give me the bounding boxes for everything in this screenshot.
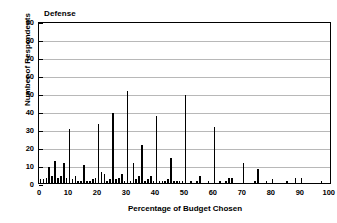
bar <box>101 172 103 183</box>
bar <box>257 169 259 183</box>
chart-figure: Defense Number of Respondents 0102030405… <box>0 0 337 223</box>
bar <box>159 181 161 183</box>
bar <box>199 176 201 183</box>
gridline-y-70 <box>39 59 330 60</box>
bar <box>321 181 323 183</box>
bar <box>60 176 62 183</box>
bar <box>63 163 65 183</box>
bar <box>115 179 117 183</box>
bar <box>112 113 114 183</box>
x-tick-mark-100 <box>330 179 331 183</box>
y-tick-label: 70 <box>4 54 34 63</box>
bar <box>133 163 135 183</box>
y-tick-mark-0 <box>39 185 43 186</box>
bar <box>266 181 268 183</box>
bar <box>106 181 108 183</box>
bar <box>66 178 68 183</box>
x-tick-label: 20 <box>84 188 110 197</box>
bar <box>295 178 297 183</box>
bar <box>80 181 82 183</box>
bar <box>147 179 149 183</box>
bar <box>182 181 184 183</box>
bar <box>208 181 210 183</box>
bar <box>118 178 120 183</box>
y-tick-mark-20 <box>39 149 43 150</box>
x-tick-mark-60 <box>214 179 215 183</box>
x-tick-mark-80 <box>272 179 273 183</box>
x-tick-label: 60 <box>200 188 226 197</box>
x-tick-label: 40 <box>142 188 168 197</box>
y-tick-mark-10 <box>39 167 43 168</box>
x-tick-mark-90 <box>301 179 302 183</box>
plot-inner <box>39 23 330 183</box>
bar <box>138 176 140 183</box>
bar <box>51 176 53 183</box>
bar <box>54 161 56 183</box>
x-tick-label: 70 <box>229 188 255 197</box>
bar <box>95 178 97 183</box>
bar <box>225 181 227 183</box>
bar <box>46 178 48 183</box>
x-tick-mark-20 <box>98 179 99 183</box>
bar <box>173 181 175 183</box>
bar <box>69 129 71 183</box>
bar <box>135 179 137 183</box>
y-tick-mark-50 <box>39 95 43 96</box>
x-tick-mark-50 <box>185 179 186 183</box>
bar <box>48 167 50 183</box>
bar <box>190 181 192 183</box>
y-tick-label: 40 <box>4 108 34 117</box>
bar <box>231 178 233 183</box>
bar <box>86 181 88 183</box>
bar <box>104 174 106 183</box>
y-tick-label: 10 <box>4 162 34 171</box>
chart-title: Defense <box>44 9 76 18</box>
x-tick-label: 30 <box>113 188 139 197</box>
x-tick-label: 90 <box>287 188 313 197</box>
bar <box>89 181 91 183</box>
bar <box>164 181 166 183</box>
y-tick-mark-30 <box>39 131 43 132</box>
bar <box>179 181 181 183</box>
bar <box>43 179 45 183</box>
gridline-y-80 <box>39 41 330 42</box>
bar <box>121 174 123 183</box>
bar <box>196 181 198 183</box>
y-tick-label: 30 <box>4 126 34 135</box>
bar <box>72 179 74 183</box>
x-tick-label: 100 <box>316 188 337 197</box>
x-axis-label: Percentage of Budget Chosen <box>38 204 332 213</box>
bar <box>170 158 172 183</box>
y-tick-mark-80 <box>39 41 43 42</box>
bar <box>127 91 129 183</box>
bar <box>162 181 164 183</box>
x-tick-label: 0 <box>26 188 52 197</box>
bar <box>98 124 100 183</box>
bar <box>176 181 178 183</box>
bar <box>130 181 132 183</box>
x-tick-label: 80 <box>258 188 284 197</box>
y-tick-label: 20 <box>4 144 34 153</box>
bar <box>144 181 146 183</box>
y-tick-label: 90 <box>4 18 34 27</box>
y-tick-mark-60 <box>39 77 43 78</box>
plot-area <box>38 22 331 184</box>
y-tick-label: 50 <box>4 90 34 99</box>
bar <box>75 176 77 183</box>
gridline-y-60 <box>39 77 330 78</box>
bar <box>150 176 152 183</box>
bar <box>167 179 169 183</box>
x-tick-mark-40 <box>156 179 157 183</box>
bar <box>228 178 230 183</box>
bar <box>254 181 256 183</box>
x-tick-mark-10 <box>69 179 70 183</box>
x-tick-mark-0 <box>40 179 41 183</box>
y-tick-label: 80 <box>4 36 34 45</box>
bar <box>156 116 158 183</box>
bar <box>92 179 94 183</box>
bar <box>124 181 126 183</box>
bar <box>57 178 59 183</box>
bar <box>185 95 187 183</box>
x-tick-mark-30 <box>127 179 128 183</box>
y-tick-mark-90 <box>39 23 43 24</box>
